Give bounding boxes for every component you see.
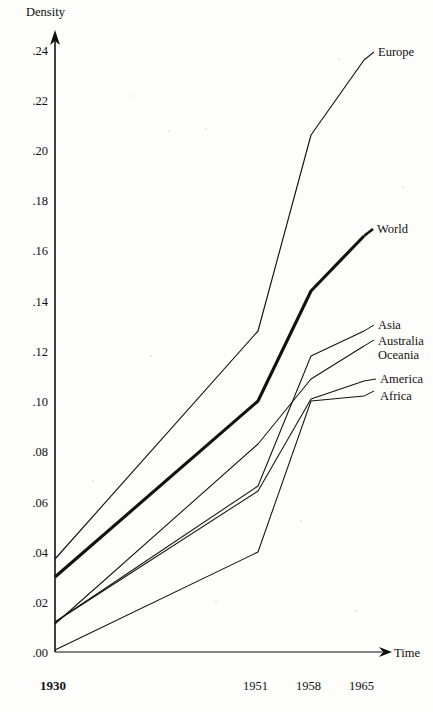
y-tick-label-00: .00 [32,646,48,660]
series-label-america: America [380,372,423,386]
chart-figure: Density Time .24 .22 .20 .18 .16 .14 .12… [0,0,433,712]
y-axis-title: Density [26,5,66,19]
paper-speck [215,600,217,602]
series-line-world [55,236,364,577]
series-line-europe [55,60,364,559]
y-tick-label-06: .06 [32,496,48,510]
y-tick-label-20: .20 [32,144,48,158]
series-label-europe: Europe [378,45,415,59]
x-tick-label-1951: 1951 [243,679,268,693]
series-label-asia: Asia [378,318,401,332]
series-label-australia: Australia [378,334,424,348]
paper-speck [402,186,404,188]
x-tick-label-1930: 1930 [40,678,66,693]
series-line-africa [55,396,364,650]
y-tick-label-16: .16 [32,244,48,258]
y-tick-label-10: .10 [32,395,48,409]
paper-speck [355,610,357,612]
x-axis [55,647,392,657]
paper-speck [150,355,152,357]
paper-speck [338,58,340,60]
y-tick-label-14: .14 [32,295,48,309]
y-tick-label-24: .24 [32,44,48,58]
paper-speck [205,128,207,130]
y-tick-label-12: .12 [32,345,48,359]
x-tick-label-1958: 1958 [296,679,321,693]
paper-speck [92,480,94,482]
paper-speck [130,95,132,97]
y-tick-label-22: .22 [32,94,48,108]
series-label-oceania: Oceania [378,348,419,362]
y-tick-label-04: .04 [32,546,48,560]
series-label-world: World [377,222,409,236]
paper-speck [168,130,170,132]
series-label-africa: Africa [380,389,412,403]
series-line-america [55,381,364,622]
series-line-australia-oceania [55,346,364,624]
y-tick-label-02: .02 [32,596,48,610]
x-tick-label-1965: 1965 [349,679,374,693]
y-tick-label-08: .08 [32,445,48,459]
line-chart-canvas: Density Time .24 .22 .20 .18 .16 .14 .12… [0,0,433,712]
y-tick-label-18: .18 [32,194,48,208]
x-axis-title: Time [394,646,420,660]
paper-speck [300,520,302,522]
